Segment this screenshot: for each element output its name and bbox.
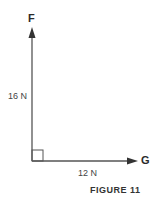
vector-f-label: F bbox=[28, 12, 35, 24]
vector-diagram bbox=[0, 0, 161, 210]
vector-f-arrowhead-icon bbox=[29, 27, 36, 38]
figure-caption: FIGURE 11 bbox=[90, 185, 141, 195]
vector-g-arrowhead-icon bbox=[127, 158, 138, 165]
vector-f-magnitude: 16 N bbox=[8, 91, 27, 101]
vector-g-magnitude: 12 N bbox=[78, 168, 97, 178]
right-angle-marker bbox=[32, 150, 43, 161]
vector-g-label: G bbox=[141, 154, 150, 166]
